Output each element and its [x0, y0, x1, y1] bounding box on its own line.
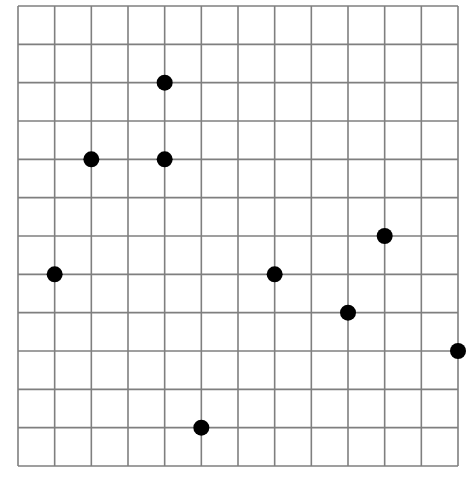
grid-points — [47, 75, 466, 436]
grid-point — [157, 151, 173, 167]
grid-point — [193, 420, 209, 436]
grid-point — [47, 266, 63, 282]
grid-point — [377, 228, 393, 244]
grid-point — [340, 305, 356, 321]
grid-point — [450, 343, 466, 359]
grid-point — [157, 75, 173, 91]
dot-grid-diagram — [0, 0, 475, 485]
grid-point — [267, 266, 283, 282]
grid-point — [83, 151, 99, 167]
